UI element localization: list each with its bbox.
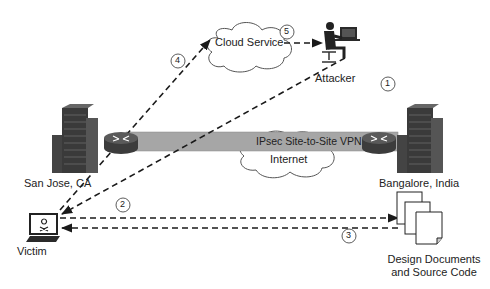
documents-icon [397, 192, 442, 244]
step-number-1: 1 [385, 78, 390, 88]
router-icon-san-jose [104, 132, 138, 154]
step-number-2: 2 [120, 199, 125, 209]
attacker-icon [322, 22, 360, 62]
internet-label: Internet [270, 153, 307, 165]
step-number-5: 5 [284, 26, 289, 36]
building-icon-bangalore [397, 104, 443, 173]
cloud-service-label: Cloud Service [215, 36, 283, 48]
attacker-label: Attacker [315, 72, 355, 84]
bangalore-label: Bangalore, India [379, 177, 459, 189]
building-icon-san-jose [52, 104, 98, 173]
step-number-4: 4 [175, 55, 180, 65]
san-jose-label: San Jose, CA [24, 177, 91, 189]
step-number-3: 3 [346, 230, 351, 240]
router-icon-bangalore [362, 132, 396, 154]
victim-laptop-icon [26, 214, 60, 242]
victim-label: Victim [17, 245, 47, 257]
documents-label-line1: Design Documents [386, 253, 482, 266]
vpn-label: IPsec Site-to-Site VPN [256, 135, 362, 147]
documents-label-line2: and Source Code [386, 266, 482, 279]
documents-label: Design Documents and Source Code [386, 253, 482, 279]
